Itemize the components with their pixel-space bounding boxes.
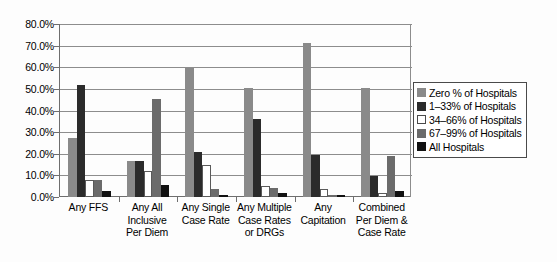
chart-legend: Zero % of Hospitals1–33% of Hospitals34–… [413,82,527,158]
x-axis-category-label: Any All Inclusive Per Diem [118,201,177,239]
bar[interactable] [127,161,136,197]
bar-set [295,24,354,197]
bar[interactable] [378,193,387,197]
y-axis-tick-label: 20.0% [0,149,54,160]
bar[interactable] [68,138,77,197]
x-axis-category-label: Any Single Case Rate [176,201,235,239]
y-axis-tick-mark [54,89,59,90]
bar[interactable] [211,189,220,197]
bar-groups [60,24,412,197]
bar[interactable] [161,185,170,197]
bar-group [119,24,178,197]
bar[interactable] [194,152,203,197]
legend-item[interactable]: All Hospitals [417,140,522,154]
bar[interactable] [144,171,153,197]
bar-group [60,24,119,197]
y-axis-tick-label: 10.0% [0,170,54,181]
y-axis-tick-mark [54,67,59,68]
bar-set [236,24,295,197]
bar-set [177,24,236,197]
legend-swatch-icon [417,88,426,97]
bar[interactable] [278,193,287,197]
legend-label: 67–99% of Hospitals [429,128,522,139]
bar[interactable] [219,195,228,197]
x-axis-category-label: Any FFS [59,201,118,239]
x-axis-category-label: Any Capitation [294,201,353,239]
legend-swatch-icon [417,142,426,151]
bar[interactable] [261,186,270,197]
y-axis-tick-mark [54,111,59,112]
bar[interactable] [311,155,320,197]
y-axis-tick-label: 40.0% [0,106,54,117]
bar-set [353,24,412,197]
bar-group [295,24,354,197]
bar[interactable] [102,191,111,197]
x-axis-category-label: Any Multiple Case Rates or DRGs [235,201,294,239]
bar-set [60,24,119,197]
legend-item[interactable]: Zero % of Hospitals [417,86,522,100]
bar[interactable] [270,188,279,197]
y-axis-tick-mark [54,24,59,25]
x-axis-category-label: Combined Per Diem & Case Rate [352,201,411,239]
y-axis-tick-label: 80.0% [0,19,54,30]
bar[interactable] [303,43,312,197]
y-axis-tick-label: 60.0% [0,62,54,73]
legend-item[interactable]: 1–33% of Hospitals [417,100,522,114]
x-axis-labels: Any FFSAny All Inclusive Per DiemAny Sin… [59,201,411,239]
bar[interactable] [370,176,379,197]
legend-label: All Hospitals [429,142,484,153]
bar-set [119,24,178,197]
legend-item[interactable]: 34–66% of Hospitals [417,113,522,127]
bar[interactable] [395,191,404,197]
legend-swatch-icon [417,102,426,111]
legend-swatch-icon [417,129,426,138]
legend-label: 34–66% of Hospitals [429,115,522,126]
legend-label: 1–33% of Hospitals [429,101,516,112]
bar[interactable] [337,195,346,197]
bar[interactable] [185,68,194,197]
bar[interactable] [85,180,94,197]
bar[interactable] [152,99,161,197]
y-axis-tick-label: 50.0% [0,84,54,95]
y-axis-tick-mark [54,197,59,198]
bar[interactable] [361,88,370,197]
y-axis-tick-mark [54,46,59,47]
bar[interactable] [135,161,144,197]
y-axis-tick-mark [54,175,59,176]
legend-swatch-icon [417,115,426,124]
bar[interactable] [77,85,86,197]
y-axis-tick-label: 30.0% [0,127,54,138]
chart-container: Any FFSAny All Inclusive Per DiemAny Sin… [0,0,557,262]
bar[interactable] [387,156,396,197]
bar[interactable] [202,165,211,197]
bar-group [353,24,412,197]
y-axis-tick-label: 0.0% [0,192,54,203]
bar[interactable] [320,189,329,197]
bar[interactable] [94,180,103,197]
bar[interactable] [328,195,337,197]
legend-item[interactable]: 67–99% of Hospitals [417,127,522,141]
y-axis-tick-mark [54,132,59,133]
bar-group [236,24,295,197]
bar-group [177,24,236,197]
y-axis-tick-mark [54,154,59,155]
bar[interactable] [244,88,253,197]
legend-label: Zero % of Hospitals [429,88,517,99]
bar[interactable] [253,119,262,197]
plot-area [59,24,411,197]
y-axis-tick-label: 70.0% [0,41,54,52]
